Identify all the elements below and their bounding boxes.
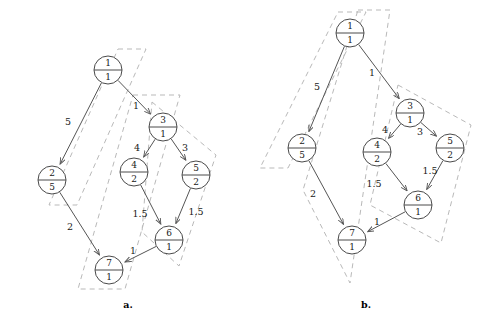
node-label-bottom-a-6: 1 [166, 242, 172, 252]
node-label-top-b-3: 3 [407, 101, 413, 111]
node-label-bottom-a-7: 1 [106, 272, 112, 282]
edge-weight-b-3-4: 4 [382, 124, 388, 135]
edge-weight-a-3-4: 4 [134, 142, 140, 153]
node-label-top-b-1: 1 [347, 21, 353, 31]
edge-weight-a-3-5: 3 [182, 142, 188, 153]
edge-weight-b-2-7: 2 [310, 188, 316, 199]
node-label-top-b-7: 7 [349, 228, 355, 238]
node-a-2[interactable]: 25 [38, 166, 66, 194]
edge-arrow [144, 139, 155, 157]
edge-b-4-to-6: 1.5 [366, 163, 407, 190]
node-b-5[interactable]: 52 [436, 134, 464, 162]
edge-weight-a-6-7: 1 [130, 245, 136, 256]
node-label-bottom-a-1: 1 [105, 72, 111, 82]
panel-caption-b: b. [361, 299, 371, 310]
node-label-bottom-b-5: 2 [447, 150, 453, 160]
node-a-4[interactable]: 42 [120, 158, 148, 186]
edge-arrow [359, 45, 400, 99]
node-label-bottom-b-4: 2 [374, 154, 380, 164]
edge-a-3-to-5: 3 [171, 139, 188, 160]
edge-a-5-to-6: 1.5 [176, 188, 204, 223]
node-label-top-a-6: 6 [166, 228, 172, 238]
edge-arrow [60, 192, 100, 255]
node-label-top-a-1: 1 [105, 58, 111, 68]
node-a-3[interactable]: 31 [149, 113, 177, 141]
edge-weight-b-3-5: 3 [417, 126, 423, 137]
edge-weight-b-4-6: 1.5 [366, 178, 381, 189]
node-b-1[interactable]: 11 [336, 19, 364, 47]
figure-root: 51431.51.52151431.51.521 112531425261711… [0, 0, 496, 326]
node-label-top-a-4: 4 [131, 160, 137, 170]
node-b-6[interactable]: 61 [404, 191, 432, 219]
node-label-bottom-b-6: 1 [415, 207, 421, 217]
node-label-bottom-b-3: 1 [407, 115, 413, 125]
edge-b-3-to-5: 3 [417, 123, 436, 137]
graph-diagram-svg: 51431.51.52151431.51.521 112531425261711… [0, 0, 496, 326]
node-label-top-b-5: 5 [447, 136, 453, 146]
edge-arrow [386, 163, 407, 190]
node-label-top-b-2: 2 [299, 136, 305, 146]
node-b-7[interactable]: 71 [338, 226, 366, 254]
node-label-bottom-b-2: 5 [299, 150, 305, 160]
node-label-bottom-a-4: 2 [131, 174, 137, 184]
node-label-bottom-a-5: 2 [193, 177, 199, 187]
node-a-6[interactable]: 61 [155, 226, 183, 254]
node-a-7[interactable]: 71 [95, 256, 123, 284]
edge-weight-a-2-7: 2 [67, 221, 73, 232]
node-b-2[interactable]: 25 [288, 134, 316, 162]
node-label-bottom-b-1: 1 [347, 35, 353, 45]
edge-b-3-to-4: 4 [382, 124, 401, 139]
edge-weight-a-1-3: 1 [133, 100, 139, 111]
node-label-bottom-b-7: 1 [349, 242, 355, 252]
node-label-top-a-2: 2 [49, 168, 55, 178]
edge-a-1-to-2: 5 [60, 83, 101, 164]
edge-b-5-to-6: 1.5 [422, 161, 442, 190]
node-b-3[interactable]: 31 [396, 99, 424, 127]
dashed-regions-layer [49, 10, 471, 289]
edge-weight-a-1-2: 5 [65, 116, 71, 127]
edge-arrow [421, 123, 437, 137]
node-label-bottom-a-2: 5 [49, 182, 55, 192]
edge-a-3-to-4: 4 [134, 139, 155, 157]
node-label-top-a-3: 3 [160, 115, 166, 125]
node-b-4[interactable]: 42 [363, 138, 391, 166]
edge-b-6-to-7: 1 [368, 212, 405, 232]
edge-weight-b-5-6: 1.5 [422, 165, 437, 176]
edge-arrow [389, 124, 401, 138]
node-a-5[interactable]: 52 [182, 161, 210, 189]
node-a-1[interactable]: 11 [94, 56, 122, 84]
node-label-top-b-6: 6 [415, 193, 421, 203]
nodes-layer: 1125314252617111253142526171 [38, 19, 464, 284]
edge-b-2-to-7: 2 [309, 161, 343, 224]
edge-a-2-to-7: 2 [60, 192, 100, 255]
node-label-bottom-a-3: 1 [160, 129, 166, 139]
edge-weight-b-6-7: 1 [374, 216, 380, 227]
edge-weight-b-1-2: 5 [314, 81, 320, 92]
edge-b-1-to-3: 1 [359, 45, 400, 99]
panel-caption-a: a. [123, 299, 132, 310]
edge-a-4-to-6: 1.5 [132, 185, 160, 224]
node-label-top-a-7: 7 [106, 258, 112, 268]
node-label-top-b-4: 4 [374, 140, 380, 150]
edge-a-6-to-7: 1 [125, 245, 156, 262]
edge-a-1-to-3: 1 [118, 80, 150, 114]
edge-weight-a-5-6: 1.5 [188, 206, 203, 217]
edge-weight-b-1-3: 1 [369, 67, 375, 78]
edge-weight-a-4-6: 1.5 [132, 208, 147, 219]
node-label-top-a-5: 5 [193, 163, 199, 173]
captions-layer: a.b. [123, 299, 371, 310]
